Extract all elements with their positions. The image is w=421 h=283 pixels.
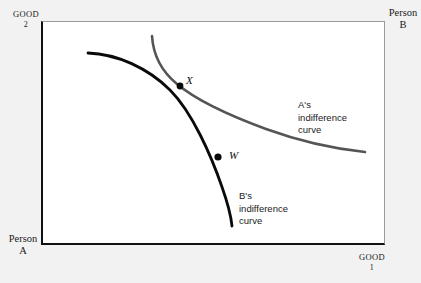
annotation-b-indifference-curve: B's indifference curve [239, 190, 288, 228]
annotation-b-line1: B's [239, 190, 288, 203]
point-marker-x [177, 83, 184, 90]
figure-container: GOOD 2 Person B Person A GOOD 1 A's indi… [0, 0, 421, 283]
axis-label-person-b: Person B [385, 7, 421, 31]
axis-label-person-a-line1: Person [3, 233, 43, 245]
axis-label-person-b-line2: B [385, 19, 421, 31]
point-marker-w [214, 153, 221, 160]
annotation-a-line2: indifference [298, 112, 347, 125]
axis-label-good-2-line2: 2 [11, 20, 41, 29]
annotation-a-line3: curve [298, 124, 347, 137]
axis-label-person-a: Person A [3, 233, 43, 257]
annotation-a-indifference-curve: A's indifference curve [298, 99, 347, 137]
point-label-w: W [229, 149, 238, 161]
axis-label-person-b-line1: Person [385, 7, 421, 19]
axis-label-good-1: GOOD 1 [356, 253, 388, 272]
annotation-a-line1: A's [298, 99, 347, 112]
axis-label-good-1-line2: 1 [356, 263, 388, 272]
axis-label-good-2-line1: GOOD [11, 10, 41, 20]
axis-label-good-1-line1: GOOD [356, 253, 388, 263]
point-label-x: X [186, 74, 193, 86]
axis-label-good-2: GOOD 2 [11, 10, 41, 29]
b-indifference-curve [88, 53, 232, 226]
curves-layer [0, 0, 421, 283]
axis-label-person-a-line2: A [3, 245, 43, 257]
annotation-b-line3: curve [239, 215, 288, 228]
annotation-b-line2: indifference [239, 203, 288, 216]
